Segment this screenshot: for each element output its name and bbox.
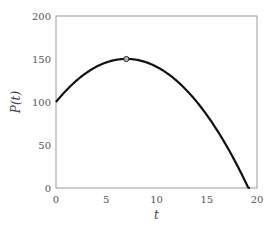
y-tick-label: 200 xyxy=(32,11,51,22)
maximum-marker xyxy=(124,56,129,61)
y-tick-label: 100 xyxy=(32,97,51,108)
x-tick-label: 15 xyxy=(200,194,213,205)
series-line-p-of-t xyxy=(56,59,250,188)
x-tick-label: 10 xyxy=(150,194,163,205)
x-axis-label: t xyxy=(154,208,159,222)
x-tick-label: 20 xyxy=(251,194,264,205)
plot-frame xyxy=(56,16,257,188)
y-tick-label: 0 xyxy=(45,183,51,194)
chart: 05101520 050100150200 t P(t) xyxy=(0,0,274,227)
x-tick-label: 5 xyxy=(103,194,109,205)
y-tick-labels: 050100150200 xyxy=(32,11,51,194)
y-tick-label: 150 xyxy=(32,54,51,65)
y-tick-label: 50 xyxy=(38,140,51,151)
x-tick-labels: 05101520 xyxy=(53,194,264,205)
y-axis-label: P(t) xyxy=(9,91,23,115)
x-tick-label: 0 xyxy=(53,194,59,205)
